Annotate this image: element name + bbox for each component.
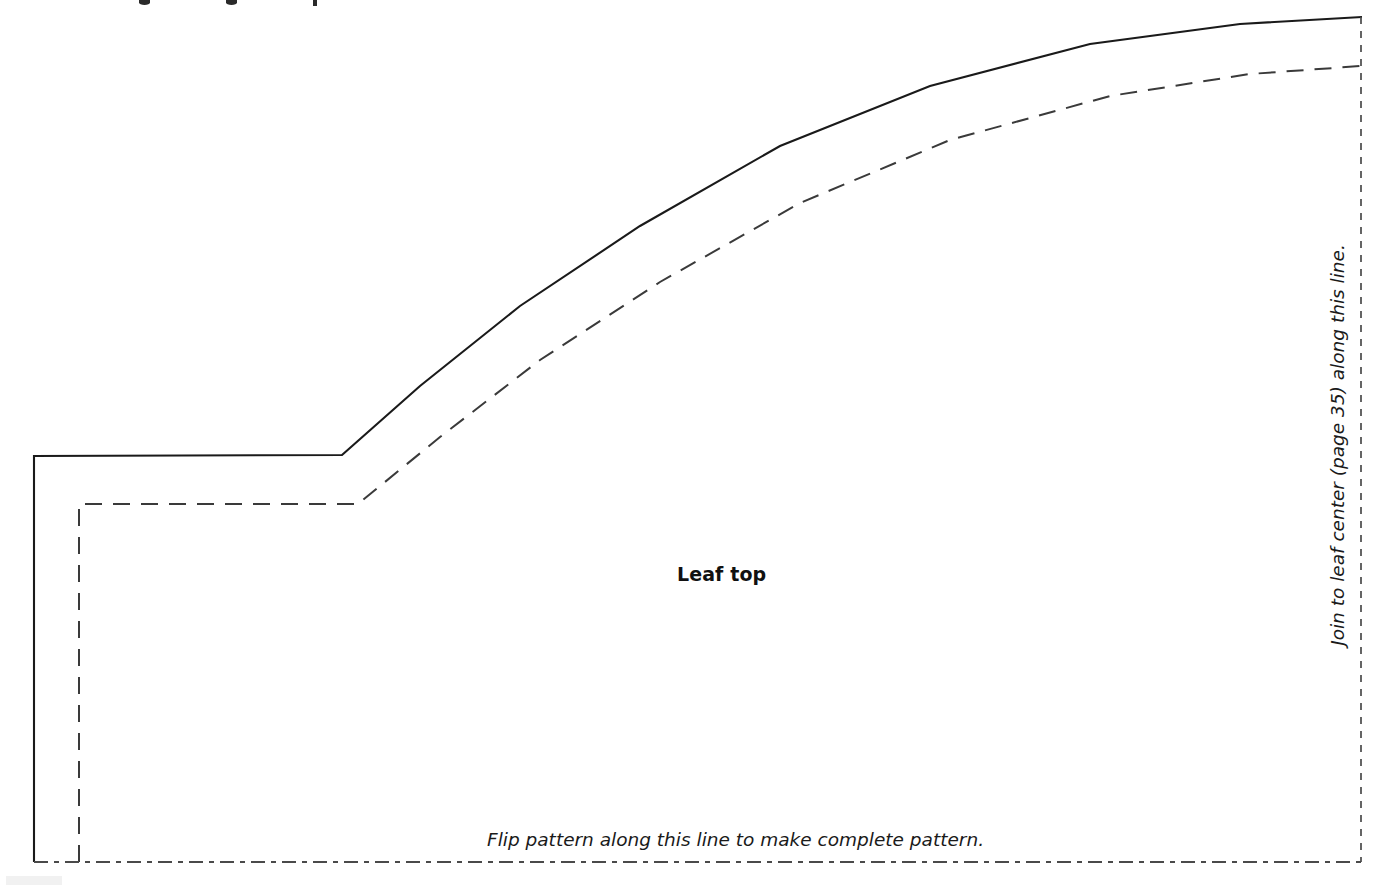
seam-allowance-line	[79, 66, 1361, 862]
pattern-sheet: Leaf top Flip pattern along this line to…	[0, 0, 1381, 893]
fold-instruction-label: Flip pattern along this line to make com…	[487, 829, 984, 850]
page-edge-artifact	[6, 876, 62, 885]
page-title: Leaf top	[677, 563, 766, 585]
join-instruction-label: Join to leaf center (page 35) along this…	[1327, 244, 1348, 646]
pattern-diagram	[0, 0, 1381, 893]
cutting-line	[34, 17, 1362, 862]
